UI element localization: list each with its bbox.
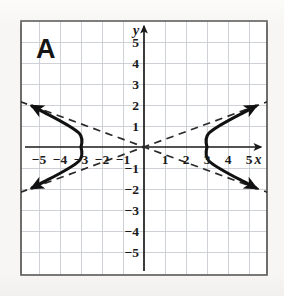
y-tick-label: −4 bbox=[125, 224, 140, 239]
x-tick-label: 1 bbox=[162, 152, 169, 167]
y-axis-label: y bbox=[131, 23, 140, 38]
x-tick-label: −2 bbox=[95, 152, 110, 167]
x-tick-label: −3 bbox=[74, 152, 89, 167]
x-tick-label: −5 bbox=[32, 152, 47, 167]
y-tick-label: −5 bbox=[125, 245, 140, 260]
x-tick-label: 5 bbox=[246, 152, 253, 167]
x-tick-label: 2 bbox=[183, 152, 190, 167]
y-tick-label: −3 bbox=[125, 203, 140, 218]
y-tick-label: 2 bbox=[132, 98, 139, 113]
x-tick-label: 3 bbox=[204, 152, 211, 167]
y-tick-label: 1 bbox=[132, 119, 139, 134]
x-tick-label: −4 bbox=[53, 152, 68, 167]
y-tick-label: −2 bbox=[125, 182, 140, 197]
y-tick-label: −1 bbox=[125, 161, 140, 176]
panel-letter: A bbox=[36, 36, 56, 63]
x-tick-label: 4 bbox=[225, 152, 232, 167]
graph-figure: −5 −4 −3 −2 −1 1 2 3 4 5 5 4 3 2 1 −1 −2… bbox=[0, 0, 284, 296]
x-axis-label: x bbox=[254, 152, 262, 167]
y-tick-label: 4 bbox=[132, 56, 139, 71]
y-tick-label: 3 bbox=[132, 77, 139, 92]
